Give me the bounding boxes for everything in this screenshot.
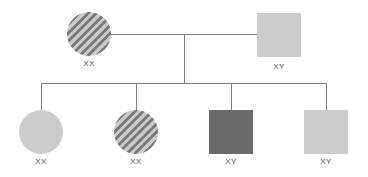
mother-label: XX	[67, 59, 111, 68]
child-2-drop-line	[136, 83, 137, 110]
child-1-label: XX	[19, 157, 63, 166]
child-4-label: XY	[304, 157, 348, 166]
child-3-node-affected-male	[209, 110, 253, 154]
mother-node-carrier-female	[67, 12, 111, 56]
descent-line	[184, 34, 185, 84]
father-node-unaffected-male	[257, 13, 301, 57]
child-3-label: XY	[209, 157, 253, 166]
sibship-line	[41, 83, 327, 84]
child-4-drop-line	[326, 83, 327, 110]
child-1-drop-line	[41, 83, 42, 110]
child-2-label: XX	[114, 157, 158, 166]
child-2-node-carrier-female	[114, 110, 158, 154]
child-3-drop-line	[231, 83, 232, 110]
father-label: XY	[257, 62, 301, 71]
child-4-node-unaffected-male	[304, 110, 348, 154]
child-1-node-unaffected-female	[19, 110, 63, 154]
